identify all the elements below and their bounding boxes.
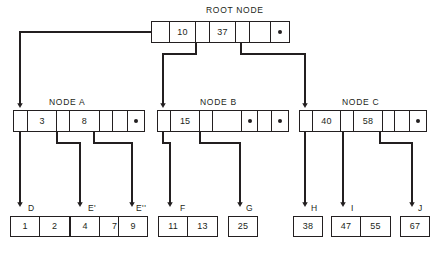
null-pointer-dot-icon (416, 119, 420, 123)
leaf-g-value-0[interactable]: 25 (229, 217, 257, 236)
btree-diagram: ROOT NODE 10 37 NODE A 3 8 NODE B 15 NOD… (0, 0, 434, 261)
null-pointer-dot-icon (278, 30, 282, 34)
node-a-cell-key-2[interactable] (113, 111, 129, 131)
edge-root-to-node-c (241, 43, 305, 106)
leaf-d-label: D (28, 204, 35, 213)
root-node[interactable]: 10 37 (151, 21, 290, 43)
leaf-f-label: F (180, 204, 186, 213)
edge-root-to-node-b (163, 43, 196, 106)
node-b-cell-null-ptr-1[interactable] (242, 111, 259, 131)
root-cell-null-ptr[interactable] (271, 22, 289, 42)
node-b-cell-key-0[interactable]: 15 (171, 111, 201, 131)
node-b-label: NODE B (200, 98, 237, 107)
leaf-node-j[interactable]: 67 (400, 216, 430, 237)
node-c-cell-null-ptr[interactable] (410, 111, 426, 131)
edge-node-a-to-eprime (57, 132, 80, 205)
node-a-cell-key-0[interactable]: 3 (28, 111, 58, 131)
leaf-h-label: H (311, 204, 318, 213)
node-a-cell-ptr-2[interactable] (100, 111, 113, 131)
leaf-eprime-value-0[interactable]: 4 (71, 217, 100, 236)
root-node-label: ROOT NODE (206, 6, 264, 15)
node-a-label: NODE A (49, 98, 85, 107)
leaf-f-value-1[interactable]: 13 (188, 217, 217, 236)
node-b-cell-ptr-1[interactable] (200, 111, 213, 131)
leaf-j-value-0[interactable]: 67 (401, 217, 429, 236)
leaf-j-label: J (418, 204, 423, 213)
edge-root-to-node-a (20, 32, 151, 106)
leaf-node-i[interactable]: 47 55 (331, 216, 391, 237)
leaf-node-d[interactable]: 1 2 (10, 216, 70, 237)
leaf-node-g[interactable]: 25 (228, 216, 258, 237)
root-cell-key-2[interactable] (250, 22, 271, 42)
node-c-cell-key-1[interactable]: 58 (354, 111, 383, 131)
leaf-f-value-0[interactable]: 11 (159, 217, 188, 236)
node-c[interactable]: 40 58 (299, 110, 427, 132)
leaf-edprime-value-0[interactable]: 9 (119, 217, 147, 236)
root-cell-ptr-2[interactable] (236, 22, 250, 42)
node-c-label: NODE C (342, 98, 379, 107)
edge-node-c-to-j (380, 132, 412, 205)
null-pointer-dot-icon (134, 119, 138, 123)
node-b[interactable]: 15 (157, 110, 289, 132)
node-a-cell-ptr-0[interactable] (14, 111, 28, 131)
node-c-cell-key-2[interactable] (395, 111, 410, 131)
node-a[interactable]: 3 8 (13, 110, 145, 132)
leaf-edprime-label: E'' (136, 204, 146, 213)
leaf-i-label: I (351, 204, 354, 213)
leaf-h-value-0[interactable]: 38 (294, 217, 322, 236)
node-b-cell-key-1[interactable] (213, 111, 242, 131)
node-c-cell-ptr-0[interactable] (300, 111, 313, 131)
node-b-cell-key-2[interactable] (258, 111, 272, 131)
leaf-i-value-0[interactable]: 47 (332, 217, 361, 236)
null-pointer-dot-icon (248, 119, 252, 123)
leaf-i-value-1[interactable]: 55 (361, 217, 390, 236)
root-cell-ptr-1[interactable] (196, 22, 210, 42)
edge-node-a-to-edprime (94, 132, 132, 205)
null-pointer-dot-icon (278, 119, 282, 123)
node-c-cell-ptr-1[interactable] (341, 111, 354, 131)
leaf-node-h[interactable]: 38 (293, 216, 323, 237)
leaf-node-f[interactable]: 11 13 (158, 216, 218, 237)
root-cell-key-0[interactable]: 10 (170, 22, 196, 42)
node-b-cell-null-ptr-2[interactable] (272, 111, 288, 131)
root-cell-ptr-0[interactable] (152, 22, 170, 42)
leaf-d-value-0[interactable]: 1 (11, 217, 40, 236)
node-b-cell-ptr-0[interactable] (158, 111, 171, 131)
node-a-cell-key-1[interactable]: 8 (70, 111, 100, 131)
node-c-cell-ptr-2[interactable] (383, 111, 396, 131)
node-a-cell-ptr-1[interactable] (57, 111, 70, 131)
leaf-g-label: G (246, 204, 253, 213)
node-c-cell-key-0[interactable]: 40 (313, 111, 342, 131)
edge-node-b-to-g (200, 132, 240, 205)
leaf-node-e-double-prime[interactable]: 9 (118, 216, 148, 237)
leaf-d-value-1[interactable]: 2 (40, 217, 69, 236)
root-cell-key-1[interactable]: 37 (210, 22, 236, 42)
edge-node-b-to-f (163, 132, 170, 205)
leaf-eprime-label: E' (88, 204, 96, 213)
node-a-cell-null-ptr[interactable] (128, 111, 144, 131)
